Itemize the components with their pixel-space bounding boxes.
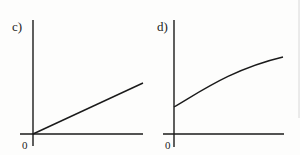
origin-label-d: 0 — [165, 139, 171, 151]
origin-label-c: 0 — [22, 139, 28, 151]
line-c — [33, 83, 143, 134]
chart-d: d) 0 — [157, 19, 284, 151]
figure: c) 0 d) 0 — [0, 0, 300, 155]
chart-c: c) 0 — [12, 19, 143, 151]
panel-label-d: d) — [157, 19, 168, 34]
panel-label-c: c) — [12, 19, 22, 34]
curve-d — [174, 57, 283, 107]
